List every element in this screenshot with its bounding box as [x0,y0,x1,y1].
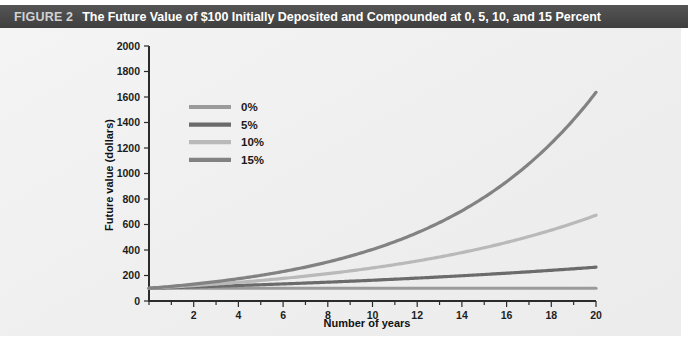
series-line-10pct [149,215,596,288]
y-axis-tick-label: 1400 [117,116,141,128]
legend-label-5pct: 5% [241,119,258,131]
chart-legend: 0%5%10%15% [189,101,264,166]
y-axis-tick-label: 200 [122,269,140,281]
y-axis-tick-label: 1000 [117,167,141,179]
x-axis-tick-label: 18 [545,309,557,321]
figure-container: FIGURE 2 The Future Value of $100 Initia… [0,0,693,351]
y-axis-tick-label: 400 [122,244,140,256]
y-axis-tick-label: 0 [134,295,140,307]
y-axis-tick-label: 1200 [117,142,141,154]
legend-label-10pct: 10% [241,136,264,148]
y-axis-title: Future value (dollars) [103,119,115,231]
x-axis-tick-label: 12 [411,309,423,321]
legend-label-15pct: 15% [241,154,264,166]
axis-lines [149,46,596,301]
x-axis-tick-label: 2 [191,309,197,321]
chart-plot-area: 0200400600800100012001400160018002000 24… [0,0,693,351]
y-axis-tick-label: 800 [122,193,140,205]
series-line-15pct [149,92,596,288]
legend-label-0pct: 0% [241,101,258,113]
x-axis-tick-label: 14 [456,309,468,321]
y-axis-tick-label: 1800 [117,65,141,77]
x-axis-tick-label: 4 [235,309,241,321]
data-series-group [149,92,596,288]
y-axis-tick-label: 2000 [117,40,141,52]
x-axis-tick-label: 20 [590,309,602,321]
y-axis-tick-label: 1600 [117,91,141,103]
x-axis-title: Number of years [324,317,411,329]
x-axis-tick-label: 6 [280,309,286,321]
line-chart: 0200400600800100012001400160018002000 24… [0,0,693,351]
y-axis-tick-label: 600 [122,218,140,230]
x-axis-tick-label: 16 [501,309,513,321]
y-axis-tick-group: 0200400600800100012001400160018002000 [117,40,149,307]
